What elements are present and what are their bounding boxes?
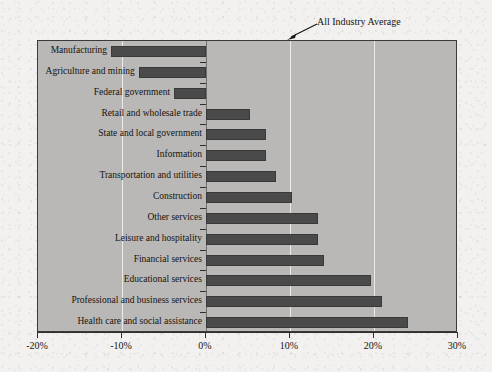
- bar-chart-figure: All Industry Average ManufacturingAgricu…: [0, 0, 492, 372]
- x-axis-tick: [373, 332, 374, 338]
- x-axis-tick: [121, 332, 122, 338]
- bar: [206, 213, 318, 224]
- category-label: Leisure and hospitality: [0, 233, 202, 244]
- y-axis-tick: [200, 166, 206, 167]
- bar: [206, 150, 266, 161]
- category-label: Federal government: [0, 87, 170, 98]
- x-axis-tick-label: -10%: [110, 340, 132, 351]
- bar: [139, 67, 206, 78]
- y-axis-tick: [200, 291, 206, 292]
- category-label: Retail and wholesale trade: [0, 108, 202, 119]
- x-axis-tick: [205, 332, 206, 338]
- category-label: Educational services: [0, 274, 202, 285]
- x-axis-tick-label: 30%: [448, 340, 466, 351]
- bar: [206, 192, 292, 203]
- bar: [206, 109, 250, 120]
- y-axis-tick: [200, 104, 206, 105]
- bar: [206, 296, 382, 307]
- gridline-10: [290, 41, 291, 331]
- bar: [174, 88, 206, 99]
- category-label: Construction: [0, 191, 202, 202]
- bar: [206, 317, 408, 328]
- category-label: Other services: [0, 212, 202, 223]
- category-label: Professional and business services: [0, 295, 202, 306]
- y-axis-tick: [200, 187, 206, 188]
- bar: [111, 46, 206, 57]
- y-axis-tick: [200, 83, 206, 84]
- annotation-arrow-icon: [283, 22, 319, 42]
- x-axis-tick-label: 0%: [198, 340, 211, 351]
- all-industry-average-annotation: All Industry Average: [317, 16, 401, 27]
- category-label: Manufacturing: [0, 45, 107, 56]
- bar: [206, 275, 371, 286]
- category-label: Agriculture and mining: [0, 66, 135, 77]
- y-axis-tick: [200, 229, 206, 230]
- y-axis-tick: [200, 124, 206, 125]
- x-axis-tick: [37, 332, 38, 338]
- x-axis-tick-label: 20%: [364, 340, 382, 351]
- category-label: State and local government: [0, 128, 202, 139]
- x-axis-tick-label: 10%: [280, 340, 298, 351]
- category-label: Health care and social assistance: [0, 316, 202, 327]
- zero-baseline: [206, 41, 207, 331]
- x-axis-tick-label: -20%: [26, 340, 48, 351]
- y-axis-tick: [200, 250, 206, 251]
- plot-area: [37, 40, 457, 332]
- y-axis-tick: [200, 312, 206, 313]
- bar: [206, 234, 318, 245]
- gridline-20: [374, 41, 375, 331]
- x-axis-tick: [289, 332, 290, 338]
- bar: [206, 171, 276, 182]
- y-axis-tick: [200, 208, 206, 209]
- gridline--10: [122, 41, 123, 331]
- bar: [206, 129, 266, 140]
- y-axis-tick: [200, 145, 206, 146]
- category-label: Transportation and utilities: [0, 170, 202, 181]
- x-axis-tick: [457, 332, 458, 338]
- y-axis-tick: [200, 270, 206, 271]
- bar: [206, 255, 324, 266]
- category-label: Financial services: [0, 254, 202, 265]
- x-axis-line: [37, 332, 458, 333]
- y-axis-tick: [200, 62, 206, 63]
- category-label: Information: [0, 149, 202, 160]
